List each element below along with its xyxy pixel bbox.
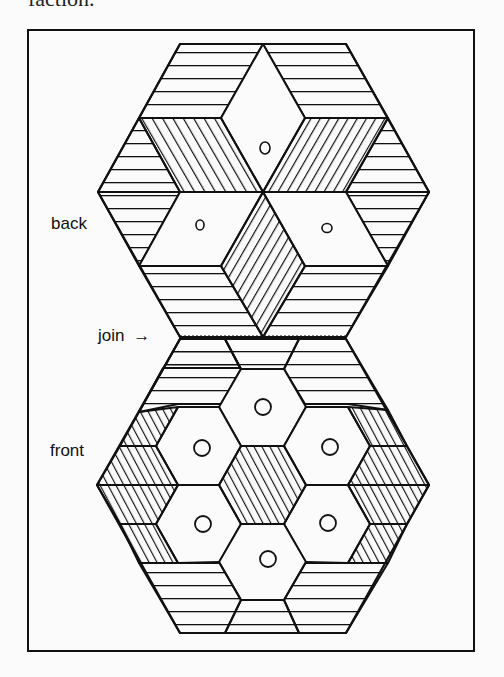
back-label: back [51,214,87,234]
hexagon-quilt-diagram [0,0,504,677]
arrow-right-icon: → [133,326,150,345]
join-label: join → [98,326,150,346]
back-panel [98,44,429,337]
front-label: front [50,441,84,461]
front-panel [97,339,429,633]
join-label-text: join [98,326,124,345]
